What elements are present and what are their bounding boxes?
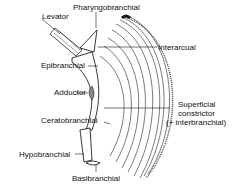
label-superficial-constrictor-1: Superficial	[178, 100, 215, 109]
label-interarcual: Interarcual	[158, 43, 196, 52]
label-basibranchial: Basibranchial	[72, 174, 120, 183]
label-epibranchial: Epibranchial	[41, 61, 85, 70]
label-levator: Levator	[42, 12, 69, 21]
label-superficial-constrictor-3: (+ interbranchial)	[166, 118, 226, 127]
gill-arch-drawing	[0, 0, 242, 188]
gill-arch-diagram: Pharyngobranchial Levator Interarcual Ep…	[0, 0, 242, 188]
label-hypobranchial: Hypobranchial	[19, 150, 70, 159]
label-pharyngobranchial: Pharyngobranchial	[73, 3, 140, 12]
label-superficial-constrictor-2: constrictor	[178, 109, 215, 118]
label-adductor: Adductor	[54, 88, 86, 97]
label-ceratobranchial: Ceratobranchial	[41, 116, 97, 125]
